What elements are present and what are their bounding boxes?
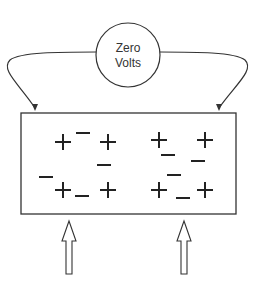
diagram-canvas: Zero Volts xyxy=(0,0,255,289)
right-lead-arrow-icon xyxy=(216,104,222,111)
upward-arrow-icon xyxy=(177,221,191,274)
left-lead-arrow-icon xyxy=(32,104,38,111)
charged-plate xyxy=(21,113,236,214)
voltmeter-circle xyxy=(96,23,160,87)
left-lead-wire xyxy=(7,52,96,108)
upward-arrow-icon xyxy=(62,221,76,274)
voltmeter-label-line1: Zero xyxy=(116,41,141,55)
voltmeter-label-line2: Volts xyxy=(115,56,141,70)
right-lead-wire xyxy=(160,52,248,108)
input-arrow-group xyxy=(62,221,191,274)
